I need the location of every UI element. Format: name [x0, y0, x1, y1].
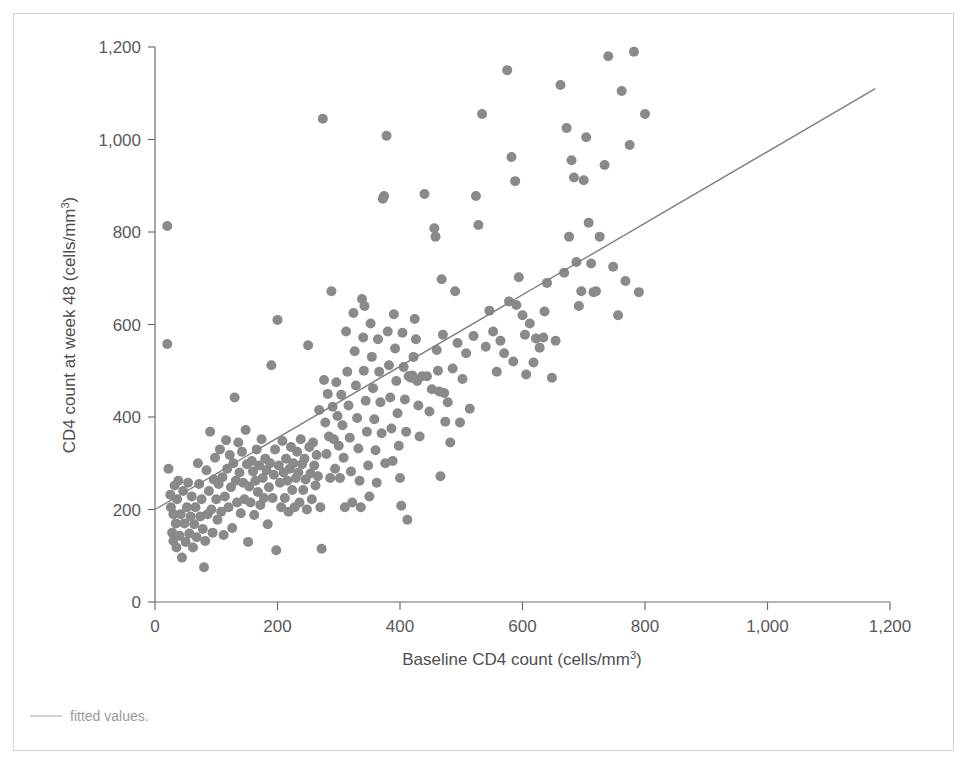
- data-point: [540, 307, 550, 317]
- data-point: [411, 334, 421, 344]
- data-point: [205, 427, 215, 437]
- data-point: [562, 123, 572, 133]
- data-point: [410, 314, 420, 324]
- data-point: [182, 502, 192, 512]
- data-point: [574, 301, 584, 311]
- data-point: [233, 437, 243, 447]
- data-point: [341, 326, 351, 336]
- data-point: [268, 493, 278, 503]
- data-point: [586, 258, 596, 268]
- data-point: [366, 319, 376, 329]
- data-point: [227, 523, 237, 533]
- data-point: [634, 287, 644, 297]
- data-point: [397, 328, 407, 338]
- data-point: [569, 172, 579, 182]
- data-point: [204, 486, 214, 496]
- data-point: [325, 473, 335, 483]
- data-point: [499, 348, 509, 358]
- data-point: [350, 346, 360, 356]
- data-point: [192, 532, 202, 542]
- data-point: [620, 276, 630, 286]
- data-point: [529, 357, 539, 367]
- data-point: [413, 400, 423, 410]
- axes-lines: [155, 47, 890, 602]
- data-point: [564, 232, 574, 242]
- y-axis-title: CD4 count at week 48 (cells/mm3): [59, 197, 79, 454]
- data-point: [326, 286, 336, 296]
- data-point: [334, 441, 344, 451]
- y-tick-label: 400: [113, 408, 141, 427]
- data-point: [309, 461, 319, 471]
- x-axis-title: Baseline CD4 count (cells/mm3): [402, 649, 642, 669]
- data-point: [551, 336, 561, 346]
- data-point: [282, 476, 292, 486]
- data-point: [492, 367, 502, 377]
- data-point: [249, 510, 259, 520]
- data-point: [518, 310, 528, 320]
- data-point: [353, 443, 363, 453]
- data-point: [415, 431, 425, 441]
- data-point: [495, 336, 505, 346]
- data-point: [390, 344, 400, 354]
- data-point: [318, 114, 328, 124]
- data-point: [348, 308, 358, 318]
- y-tick-label: 800: [113, 223, 141, 242]
- data-point: [200, 536, 210, 546]
- data-point: [640, 109, 650, 119]
- data-point: [346, 467, 356, 477]
- data-point: [189, 519, 199, 529]
- data-point: [584, 218, 594, 228]
- data-point: [567, 155, 577, 165]
- data-point: [358, 332, 368, 342]
- data-point: [402, 515, 412, 525]
- data-point: [382, 131, 392, 141]
- y-axis-ticks: 02004006008001,0001,200: [98, 38, 155, 612]
- data-point: [520, 330, 530, 340]
- data-point: [323, 389, 333, 399]
- x-tick-label: 400: [386, 617, 414, 636]
- data-point: [270, 444, 280, 454]
- data-point: [629, 47, 639, 57]
- data-point: [351, 381, 361, 391]
- y-tick-label: 200: [113, 501, 141, 520]
- x-tick-label: 1,000: [746, 617, 789, 636]
- data-point: [162, 339, 172, 349]
- data-point: [342, 367, 352, 377]
- data-point: [243, 537, 253, 547]
- y-tick-label: 600: [113, 316, 141, 335]
- data-point: [271, 545, 281, 555]
- data-point: [389, 309, 399, 319]
- data-point: [443, 397, 453, 407]
- data-point: [335, 473, 345, 483]
- data-point: [613, 310, 623, 320]
- data-point: [312, 450, 322, 460]
- data-point: [296, 434, 306, 444]
- data-point: [379, 191, 389, 201]
- y-tick-label: 0: [132, 593, 141, 612]
- data-point: [237, 447, 247, 457]
- data-point: [488, 326, 498, 336]
- data-point: [525, 319, 535, 329]
- data-point: [445, 437, 455, 447]
- data-point: [373, 334, 383, 344]
- data-point: [246, 498, 256, 508]
- data-point: [345, 433, 355, 443]
- data-point: [603, 51, 613, 61]
- data-point: [477, 109, 487, 119]
- data-point: [608, 262, 618, 272]
- data-point: [302, 505, 312, 515]
- data-point: [190, 502, 200, 512]
- data-point: [163, 464, 173, 474]
- data-point: [266, 360, 276, 370]
- x-axis-ticks: 02004006008001,0001,200: [150, 602, 911, 636]
- data-point: [438, 330, 448, 340]
- x-tick-label: 1,200: [869, 617, 912, 636]
- data-point: [600, 160, 610, 170]
- data-point: [352, 413, 362, 423]
- data-point: [269, 470, 279, 480]
- data-point: [319, 375, 329, 385]
- data-point: [461, 348, 471, 358]
- x-tick-label: 800: [631, 617, 659, 636]
- data-point: [363, 461, 373, 471]
- data-point: [171, 518, 181, 528]
